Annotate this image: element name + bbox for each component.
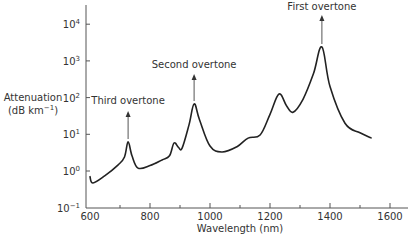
annotation-label: Third overtone xyxy=(90,95,165,106)
x-tick-label: 1200 xyxy=(257,211,282,222)
y-tick-label: 103 xyxy=(63,55,80,67)
x-ticks: 6008001000120014001600 xyxy=(80,203,402,222)
y-tick-label: 101 xyxy=(63,128,80,140)
overtone-annotations: Third overtoneSecond overtoneFirst overt… xyxy=(90,1,356,139)
axes xyxy=(86,5,408,208)
x-tick-label: 1400 xyxy=(317,211,342,222)
attenuation-chart: 6008001000120014001600 10−11001011021031… xyxy=(0,0,411,244)
arrowhead-icon xyxy=(319,15,324,21)
y-axis-label-line2: (dB km−1) xyxy=(8,104,58,116)
x-tick-label: 800 xyxy=(140,211,159,222)
y-axis-label-line1: Attenuation xyxy=(4,92,63,103)
x-axis-label: Wavelength (nm) xyxy=(197,223,283,234)
arrowhead-icon xyxy=(126,111,131,117)
y-tick-label: 104 xyxy=(63,18,81,30)
y-tick-label: 102 xyxy=(63,92,80,104)
annotation-label: Second overtone xyxy=(152,59,237,70)
x-tick-label: 1000 xyxy=(197,211,222,222)
annotation-label: First overtone xyxy=(287,1,356,12)
y-tick-label: 10−1 xyxy=(57,202,80,214)
arrowhead-icon xyxy=(192,74,197,80)
x-tick-label: 1600 xyxy=(377,211,402,222)
y-tick-label: 100 xyxy=(63,165,80,177)
x-tick-label: 600 xyxy=(80,211,99,222)
y-ticks: 10−1100101102103104 xyxy=(57,18,90,214)
